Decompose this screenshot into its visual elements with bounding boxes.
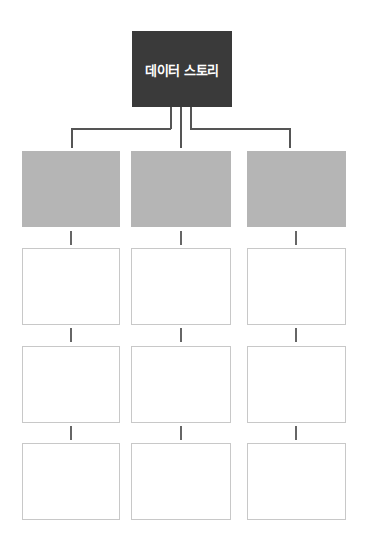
column-1-connector-3 (70, 426, 72, 440)
column-2-cell-2 (131, 346, 231, 423)
column-1-connector-2 (70, 328, 72, 342)
column-1-cell-1 (22, 248, 120, 325)
column-3-connector-1 (295, 231, 297, 245)
column-3-cell-3 (247, 443, 346, 520)
column-3-cell-1 (247, 248, 346, 325)
column-2-cell-3 (131, 443, 231, 520)
column-3-connector-3 (295, 426, 297, 440)
connector-right-horizontal (190, 128, 290, 130)
column-2-connector-1 (180, 231, 182, 245)
column-2-connector-2 (180, 328, 182, 342)
column-1-connector-1 (70, 231, 72, 245)
root-label: 데이터 스토리 (145, 60, 218, 79)
connector-right-drop (190, 107, 192, 129)
column-2-connector-3 (180, 426, 182, 440)
connector-right-down (289, 128, 291, 148)
column-2-cell-1 (131, 248, 231, 325)
column-1-header (22, 151, 120, 227)
connector-left-drop (170, 107, 172, 129)
column-3-connector-2 (295, 328, 297, 342)
column-3-header (247, 151, 346, 227)
column-3-cell-2 (247, 346, 346, 423)
root-node: 데이터 스토리 (132, 31, 232, 107)
column-1-cell-2 (22, 346, 120, 423)
connector-left-horizontal (71, 128, 171, 130)
column-1-cell-3 (22, 443, 120, 520)
connector-middle-drop (180, 107, 182, 148)
connector-left-down (71, 128, 73, 148)
column-2-header (131, 151, 231, 227)
